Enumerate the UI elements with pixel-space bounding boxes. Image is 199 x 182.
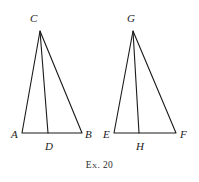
vertex-label-d: D [45, 141, 53, 152]
vertex-label-f: F [180, 129, 187, 140]
vertex-label-a: A [11, 129, 18, 140]
vertex-label-e: E [103, 129, 110, 140]
figure-caption: Ex. 20 [0, 160, 199, 170]
triangle-egf [114, 31, 176, 133]
vertex-label-g: G [127, 13, 135, 24]
geometry-figure: C A D B G E H F Ex. 20 [0, 0, 199, 182]
vertex-label-b: B [85, 129, 92, 140]
triangle-acb [22, 31, 82, 133]
vertex-label-c: C [30, 13, 37, 24]
geometry-canvas [0, 0, 199, 182]
cevian-gh [133, 31, 139, 133]
vertex-label-h: H [136, 141, 144, 152]
